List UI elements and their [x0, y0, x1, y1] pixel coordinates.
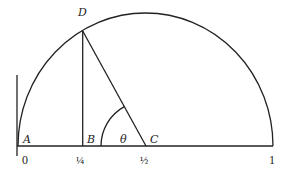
point-label-c: C [150, 133, 159, 146]
segment-dc [83, 31, 146, 146]
tick-label-half: ½ [140, 154, 148, 166]
tick-label-1: 1 [269, 153, 275, 167]
semicircle-diagram: D A B C θ 0 ¼ ½ 1 [0, 0, 290, 171]
tick-label-quarter: ¼ [76, 154, 84, 166]
point-label-d: D [77, 6, 87, 19]
point-label-b: B [86, 133, 95, 146]
semicircle-arc [18, 13, 273, 146]
tick-label-0: 0 [22, 153, 28, 167]
point-label-a: A [22, 133, 31, 146]
angle-label-theta: θ [120, 133, 127, 146]
